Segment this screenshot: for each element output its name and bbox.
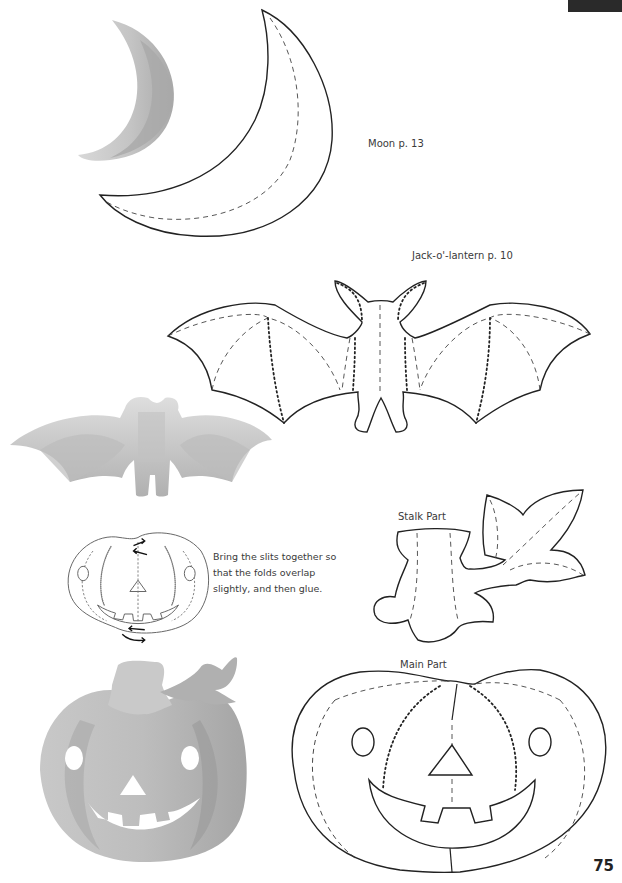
pumpkin-model-photo [40,657,247,862]
assembly-instructions: Bring the slits together so that the fol… [213,549,353,597]
main-part-template [292,670,606,873]
stalk-part-label: Stalk Part [398,511,446,522]
moon-label: Moon p. 13 [368,138,424,149]
bat-model-photo [10,397,272,496]
bat-template [168,281,590,432]
pumpkin-assembly-diagram [68,533,208,643]
templates-canvas: Moon p. 13 Jack-o'-lantern p. 10 [0,0,622,883]
main-part-label: Main Part [400,659,447,670]
bat-label: Jack-o'-lantern p. 10 [411,250,513,261]
page-number: 75 [593,857,614,875]
moon-model-photo [78,20,174,161]
